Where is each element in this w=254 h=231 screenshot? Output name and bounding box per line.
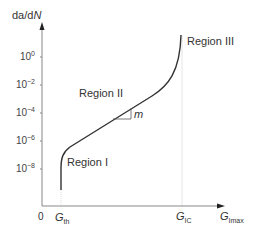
x-axis-arrow-icon xyxy=(217,204,225,209)
origin-label: 0 xyxy=(38,212,44,222)
y-tick-label-1: 10−2 xyxy=(5,80,35,90)
region-1-label: Region I xyxy=(67,157,108,168)
slope-triangle xyxy=(113,108,131,119)
y-tick-label-2: 10−4 xyxy=(5,108,35,118)
y-axis-arrow-icon xyxy=(40,22,45,30)
region-2-label: Region II xyxy=(79,88,123,99)
x-axis-label: GImax xyxy=(220,211,244,224)
region-3-label: Region III xyxy=(187,36,234,47)
crack-growth-chart: da/dN 100 10−2 10−4 10−6 10−8 0 Gth GIC … xyxy=(0,0,254,231)
y-tick-label-3: 10−6 xyxy=(5,136,35,146)
gth-label: Gth xyxy=(55,212,69,225)
slope-label: m xyxy=(134,109,143,120)
y-axis-label: da/dN xyxy=(12,10,41,21)
gic-label: GIC xyxy=(176,211,192,224)
y-tick-label-0: 100 xyxy=(5,52,35,62)
y-tick-label-4: 10−8 xyxy=(5,164,35,174)
